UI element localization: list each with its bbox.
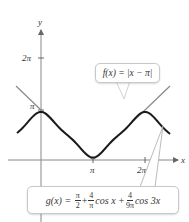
g-label-callout: g(x) = π2 + 4π cos x + 49π cos 3x [27, 186, 179, 214]
frac-pi-over-2: π2 [75, 191, 81, 210]
x-axis-label: x [180, 155, 185, 165]
g-callout-pointer [140, 126, 163, 187]
f-line [16, 86, 170, 160]
g-curve [17, 112, 170, 157]
f-callout-pointer [116, 81, 130, 99]
g-lhs: g(x) = [46, 195, 71, 206]
y-axis-label: y [37, 17, 42, 27]
y-tick-label-2pi: 2π [22, 53, 32, 63]
frac-4-over-pi: 4π [88, 191, 94, 210]
f-label-callout: f(x) = |x − π| [95, 63, 160, 83]
x-tick-label-pi: π [90, 165, 95, 175]
frac-4-over-9pi: 49π [126, 191, 134, 210]
